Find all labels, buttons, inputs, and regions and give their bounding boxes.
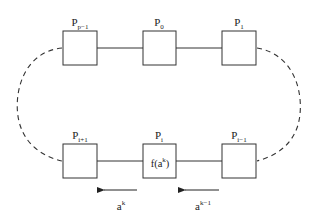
arrow-right-label: ak−1 — [195, 197, 211, 212]
dashed-arc-right — [257, 48, 300, 161]
processor-box-p-pm1 — [63, 31, 97, 65]
dashed-arc-left — [17, 48, 62, 161]
label-p-0: P0 — [154, 16, 164, 33]
label-p-1: P1 — [234, 16, 244, 33]
label-p-im1: Pi−1 — [231, 129, 247, 146]
processor-box-p-ip1 — [63, 144, 97, 178]
p-i-content: f(ak) — [151, 154, 170, 170]
processor-box-p-im1 — [222, 144, 256, 178]
processor-box-p-0 — [143, 31, 176, 65]
label-p-i: Pi — [155, 129, 163, 146]
label-p-pm1: Pp−1 — [71, 16, 88, 33]
arrow-left-label: ak — [117, 197, 125, 212]
processor-box-p-1 — [222, 31, 256, 65]
label-p-ip1: Pi+1 — [72, 129, 88, 146]
